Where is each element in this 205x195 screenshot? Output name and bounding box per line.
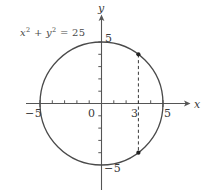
x-axis [26,101,191,107]
y-tick-label-5: 5 [105,33,112,44]
y-axis-label: y [98,3,104,14]
equation-equals-sign: = [60,27,69,38]
circle-graph-figure: x2 + y2 = 25 x y −5 0 3 5 5 −5 [0,0,205,195]
origin-tick-label: 0 [88,108,95,119]
x-tick-label-neg5: −5 [25,108,42,119]
chord-endpoint-bottom-dot [136,151,140,155]
y-tick-label-neg5: −5 [104,163,121,174]
equation-right-side: 25 [72,27,85,38]
equation-annotation: x2 + y2 = 25 [20,28,85,38]
chord-endpoint-top-dot [136,52,140,56]
x-tick-label-5: 5 [164,108,171,119]
x-axis-label: x [194,99,200,110]
equation-x-exponent: 2 [26,26,30,34]
x-tick-label-3: 3 [131,108,138,119]
equation-y-exponent: 2 [52,26,56,34]
equation-plus-sign: + [34,27,43,38]
